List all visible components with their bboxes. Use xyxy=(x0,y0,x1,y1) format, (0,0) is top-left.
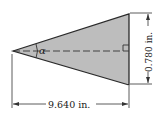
height-label: 0.780 in. xyxy=(144,32,154,72)
angle-label: α xyxy=(39,45,46,56)
arrow-down-icon xyxy=(146,77,150,83)
arrow-up-icon xyxy=(146,14,150,20)
arrow-right-icon xyxy=(122,102,128,106)
triangle-diagram: α 0.780 in. 9.640 in. xyxy=(0,0,159,116)
arrow-left-icon xyxy=(13,102,19,106)
isosceles-triangle xyxy=(13,14,129,85)
length-label: 9.640 in. xyxy=(48,99,90,110)
